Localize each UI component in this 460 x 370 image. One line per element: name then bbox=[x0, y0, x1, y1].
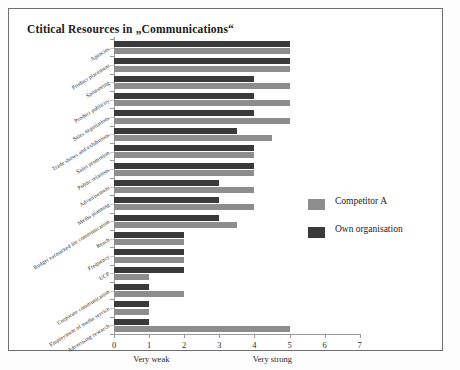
x-tick-mark bbox=[149, 334, 150, 338]
bar-competitor-a bbox=[114, 170, 254, 176]
category-leader-line bbox=[110, 169, 114, 170]
bar-competitor-a bbox=[114, 66, 290, 72]
category-leader-line bbox=[110, 204, 114, 205]
bar-own-organisation bbox=[114, 284, 149, 290]
legend-label: Competitor A bbox=[335, 196, 387, 206]
x-tick-mark bbox=[290, 334, 291, 338]
x-tick-label: 0 bbox=[104, 340, 124, 350]
bar-competitor-a bbox=[114, 257, 184, 263]
category-leader-line bbox=[110, 117, 114, 118]
bar-competitor-a bbox=[114, 48, 290, 54]
y-tick-mark bbox=[110, 265, 114, 266]
category-leader-line bbox=[110, 273, 114, 274]
x-tick-label: 1 bbox=[139, 340, 159, 350]
category-leader-line bbox=[110, 291, 114, 292]
bar-own-organisation bbox=[114, 93, 254, 99]
axis-annotation-high: Very strong bbox=[253, 354, 292, 364]
bar-own-organisation bbox=[114, 163, 254, 169]
x-tick-mark bbox=[114, 334, 115, 338]
bar-competitor-a bbox=[114, 274, 149, 280]
y-tick-mark bbox=[110, 247, 114, 248]
category-label: Sponsoring bbox=[85, 80, 111, 99]
bar-competitor-a bbox=[114, 291, 184, 297]
bar-competitor-a bbox=[114, 152, 254, 158]
bar-own-organisation bbox=[114, 215, 219, 221]
bar-own-organisation bbox=[114, 301, 149, 307]
y-tick-mark bbox=[110, 91, 114, 92]
bar-competitor-a bbox=[114, 204, 254, 210]
bar-own-organisation bbox=[114, 319, 149, 325]
category-label: Reach bbox=[95, 236, 110, 249]
x-tick-mark bbox=[254, 334, 255, 338]
y-tick-mark bbox=[110, 56, 114, 57]
bar-own-organisation bbox=[114, 267, 184, 273]
category-label: Frequency bbox=[87, 253, 111, 271]
x-tick-mark bbox=[325, 334, 326, 338]
legend-swatch bbox=[308, 227, 325, 238]
x-tick-mark bbox=[360, 334, 361, 338]
bar-competitor-a bbox=[114, 187, 254, 193]
y-tick-mark bbox=[110, 126, 114, 127]
y-tick-mark bbox=[110, 39, 114, 40]
y-tick-mark bbox=[110, 334, 114, 335]
x-tick-label: 7 bbox=[350, 340, 370, 350]
y-tick-mark bbox=[110, 317, 114, 318]
x-tick-label: 4 bbox=[244, 340, 264, 350]
y-tick-mark bbox=[110, 160, 114, 161]
bar-competitor-a bbox=[114, 309, 149, 315]
bar-own-organisation bbox=[114, 76, 254, 82]
category-leader-line bbox=[110, 325, 114, 326]
bar-own-organisation bbox=[114, 110, 254, 116]
screenshot-root: Ctitical Resources in „Communications“ 0… bbox=[0, 0, 460, 370]
bar-competitor-a bbox=[114, 83, 290, 89]
bar-competitor-a bbox=[114, 326, 290, 332]
legend-swatch bbox=[308, 199, 325, 210]
y-tick-mark bbox=[110, 282, 114, 283]
x-tick-label: 6 bbox=[315, 340, 335, 350]
y-tick-mark bbox=[110, 178, 114, 179]
y-tick-mark bbox=[110, 143, 114, 144]
bar-own-organisation bbox=[114, 128, 237, 134]
legend-label: Own organisation bbox=[335, 224, 403, 234]
category-label: UCP bbox=[98, 271, 111, 282]
x-tick-mark bbox=[184, 334, 185, 338]
y-tick-mark bbox=[110, 195, 114, 196]
category-leader-line bbox=[110, 100, 114, 101]
x-tick-label: 3 bbox=[209, 340, 229, 350]
y-tick-mark bbox=[110, 108, 114, 109]
category-label: Agencies bbox=[89, 45, 111, 62]
bar-own-organisation bbox=[114, 41, 290, 47]
x-tick-label: 5 bbox=[280, 340, 300, 350]
bar-competitor-a bbox=[114, 239, 184, 245]
bar-own-organisation bbox=[114, 197, 219, 203]
axis-annotation-low: Very weak bbox=[133, 354, 169, 364]
page-title: Ctitical Resources in „Communications“ bbox=[27, 23, 234, 35]
category-leader-line bbox=[110, 152, 114, 153]
y-tick-mark bbox=[110, 299, 114, 300]
y-tick-mark bbox=[110, 74, 114, 75]
y-tick-mark bbox=[110, 213, 114, 214]
category-leader-line bbox=[110, 308, 114, 309]
bar-own-organisation bbox=[114, 232, 184, 238]
bar-competitor-a bbox=[114, 118, 290, 124]
x-tick-mark bbox=[219, 334, 220, 338]
category-leader-line bbox=[110, 187, 114, 188]
x-tick-label: 2 bbox=[174, 340, 194, 350]
bar-competitor-a bbox=[114, 222, 237, 228]
category-leader-line bbox=[110, 134, 114, 135]
bar-own-organisation bbox=[114, 58, 290, 64]
category-leader-line bbox=[110, 48, 114, 49]
chart-frame: Ctitical Resources in „Communications“ 0… bbox=[8, 8, 443, 351]
y-tick-mark bbox=[110, 230, 114, 231]
bar-own-organisation bbox=[114, 249, 184, 255]
bar-competitor-a bbox=[114, 100, 290, 106]
category-leader-line bbox=[110, 239, 114, 240]
bar-own-organisation bbox=[114, 145, 254, 151]
bar-competitor-a bbox=[114, 135, 272, 141]
bar-own-organisation bbox=[114, 180, 219, 186]
category-leader-line bbox=[110, 65, 114, 66]
